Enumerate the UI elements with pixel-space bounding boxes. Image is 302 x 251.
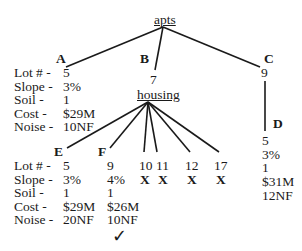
E-soil: 1 xyxy=(63,186,70,200)
F-noise: 10NF xyxy=(107,213,138,227)
edge-apts-B xyxy=(155,27,163,70)
row-label-noise: Noise - xyxy=(14,120,53,134)
rejected-lot-11: 11 xyxy=(156,159,169,173)
A-soil: 1 xyxy=(63,93,70,107)
B-lot: 7 xyxy=(150,73,157,87)
row-label-soil: Soil - xyxy=(14,186,44,200)
reject-mark-17: X xyxy=(216,173,226,187)
E-lot: 5 xyxy=(63,159,70,173)
edge-apts-C xyxy=(163,27,260,67)
node-label-D: D xyxy=(273,117,283,131)
reject-mark-10: X xyxy=(140,173,150,187)
node-label-B: B xyxy=(140,52,149,66)
row-label-soil: Soil - xyxy=(14,93,44,107)
F-lot: 9 xyxy=(107,159,114,173)
C-lot: 9 xyxy=(261,66,268,80)
checkmark-icon: ✓ xyxy=(112,227,127,245)
node-label-E: E xyxy=(54,145,63,159)
D-cost: $31M xyxy=(262,175,294,189)
row-label-lot: Lot # - xyxy=(14,159,51,173)
edge-housing-10 xyxy=(144,102,148,152)
rejected-lot-12: 12 xyxy=(185,159,199,173)
node-label-A: A xyxy=(56,52,66,66)
D-noise: 12NF xyxy=(262,189,293,203)
A-lot: 5 xyxy=(63,66,70,80)
node-label-F: F xyxy=(98,145,106,159)
edge-housing-F xyxy=(110,102,148,148)
D-lot: 5 xyxy=(262,134,269,148)
E-noise: 20NF xyxy=(63,213,94,227)
A-noise: 10NF xyxy=(63,120,94,134)
root-node-apts: apts xyxy=(154,13,176,27)
node-label-C: C xyxy=(264,52,274,66)
housing-node: housing xyxy=(137,88,180,102)
reject-mark-11: X xyxy=(158,173,168,187)
row-label-lot: Lot # - xyxy=(14,66,51,80)
reject-mark-12: X xyxy=(187,173,197,187)
row-label-noise: Noise - xyxy=(14,213,53,227)
edge-housing-11 xyxy=(148,102,157,152)
D-soil: 1 xyxy=(262,161,269,175)
F-soil: 1 xyxy=(107,186,114,200)
rejected-lot-10: 10 xyxy=(139,159,153,173)
rejected-lot-17: 17 xyxy=(214,159,228,173)
